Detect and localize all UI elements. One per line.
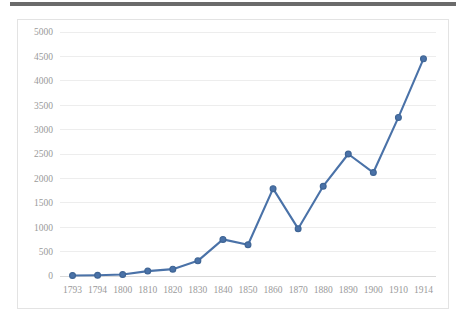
x-axis-tick-label: 1830 bbox=[188, 285, 207, 295]
data-point-marker[interactable] bbox=[120, 272, 126, 278]
y-axis-tick-label: 2000 bbox=[34, 174, 53, 184]
chart-frame: 0500100015002000250030003500400045005000… bbox=[17, 19, 449, 309]
x-axis-tick-label: 1800 bbox=[113, 285, 132, 295]
x-axis-tick-label: 1820 bbox=[163, 285, 182, 295]
data-point-marker[interactable] bbox=[170, 266, 176, 272]
x-axis-tick-label: 1793 bbox=[63, 285, 82, 295]
y-axis-tick-label: 4500 bbox=[34, 52, 53, 62]
line-chart: 0500100015002000250030003500400045005000… bbox=[18, 20, 448, 308]
x-axis-tick-label: 1850 bbox=[239, 285, 258, 295]
data-point-marker[interactable] bbox=[345, 151, 351, 157]
data-point-marker[interactable] bbox=[220, 237, 226, 243]
x-axis-tick-label: 1794 bbox=[88, 285, 107, 295]
data-point-marker[interactable] bbox=[70, 273, 76, 279]
x-axis-tick-label: 1914 bbox=[414, 285, 433, 295]
x-axis-tick-label: 1870 bbox=[289, 285, 308, 295]
data-point-marker[interactable] bbox=[95, 272, 101, 278]
y-axis-tick-label: 3000 bbox=[34, 125, 53, 135]
data-point-marker[interactable] bbox=[145, 268, 151, 274]
y-axis-tick-label: 1000 bbox=[34, 223, 53, 233]
x-axis-tick-label: 1910 bbox=[389, 285, 408, 295]
chart-canvas: 0500100015002000250030003500400045005000… bbox=[18, 20, 448, 308]
data-point-marker[interactable] bbox=[295, 226, 301, 232]
data-point-marker[interactable] bbox=[270, 186, 276, 192]
data-point-marker[interactable] bbox=[320, 183, 326, 189]
y-axis-tick-label: 5000 bbox=[34, 27, 53, 37]
data-point-marker[interactable] bbox=[245, 242, 251, 248]
y-axis-tick-label: 3500 bbox=[34, 101, 53, 111]
x-axis-tick-label: 1860 bbox=[264, 285, 283, 295]
y-axis-tick-label: 2500 bbox=[34, 149, 53, 159]
y-axis-tick-label: 0 bbox=[48, 271, 53, 281]
y-axis-tick-label: 500 bbox=[39, 247, 54, 257]
x-axis-tick-label: 1840 bbox=[213, 285, 232, 295]
y-axis-tick-label: 1500 bbox=[34, 198, 53, 208]
top-divider-bar bbox=[10, 2, 456, 6]
x-axis-tick-label: 1810 bbox=[138, 285, 157, 295]
data-point-marker[interactable] bbox=[396, 115, 402, 121]
data-point-marker[interactable] bbox=[195, 258, 201, 264]
data-point-marker[interactable] bbox=[421, 56, 427, 62]
y-axis-tick-label: 4000 bbox=[34, 76, 53, 86]
x-axis-tick-label: 1880 bbox=[314, 285, 333, 295]
x-axis-tick-label: 1890 bbox=[339, 285, 358, 295]
data-point-marker[interactable] bbox=[370, 170, 376, 176]
x-axis-tick-label: 1900 bbox=[364, 285, 383, 295]
